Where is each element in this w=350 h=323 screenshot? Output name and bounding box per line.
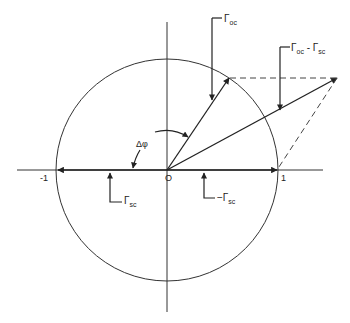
- neg-one-label: -1: [40, 173, 48, 183]
- gamma-sc-leader: [110, 173, 122, 202]
- delta-phi-pointer: [133, 150, 140, 168]
- pos-one-label: 1: [281, 173, 286, 183]
- dashed-right: [277, 78, 337, 170]
- gamma-sc-label: Γsc: [124, 195, 137, 208]
- gamma-diff-vector: [167, 78, 337, 170]
- gamma-oc-label: Γoc: [224, 13, 237, 26]
- gamma-oc-vector: [167, 78, 229, 170]
- delta-phi-label: Δφ: [136, 139, 148, 149]
- delta-phi-arc: [155, 130, 188, 137]
- gamma-diff-label: Γoc - Γsc: [291, 42, 326, 55]
- origin-label: O: [165, 173, 172, 183]
- neg-gamma-sc-label: −Γsc: [217, 192, 236, 205]
- neg-gamma-sc-leader: [204, 173, 215, 198]
- phasor-diagram: Δφ Γoc Γoc - Γsc Γsc −Γsc -1 O 1: [0, 0, 350, 323]
